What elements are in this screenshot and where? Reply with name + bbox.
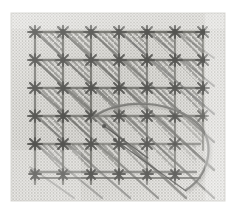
tonal-overlay xyxy=(11,13,225,201)
screenshot-root xyxy=(0,0,233,209)
needlework-photograph xyxy=(0,0,233,209)
